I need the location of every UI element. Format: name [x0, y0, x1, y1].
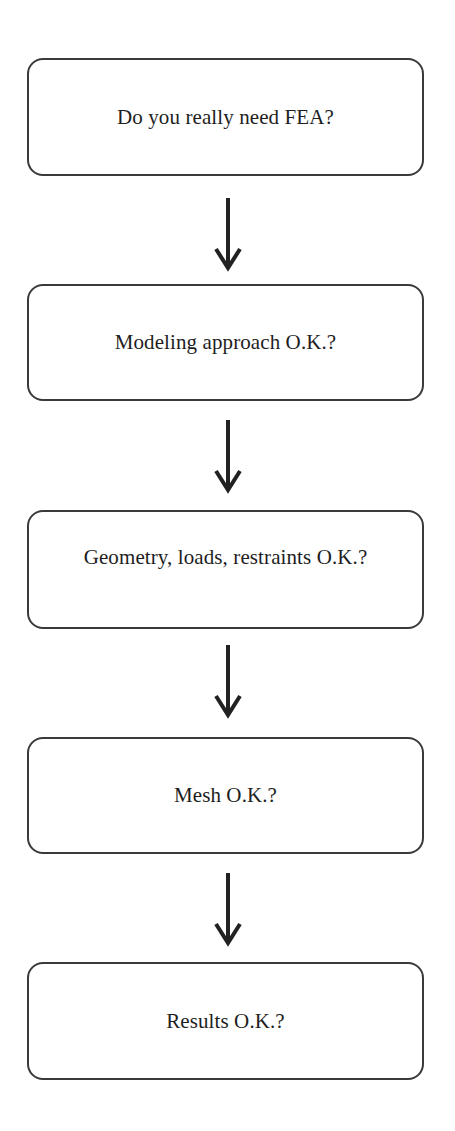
- step-box-geometry-loads-restraints: Geometry, loads, restraints O.K.?: [27, 510, 424, 629]
- down-arrow-icon: [213, 196, 243, 272]
- down-arrow-icon: [213, 418, 243, 494]
- step-label: Results O.K.?: [166, 1009, 285, 1034]
- step-label: Modeling approach O.K.?: [115, 330, 337, 355]
- step-box-results: Results O.K.?: [27, 962, 424, 1080]
- down-arrow-icon: [213, 871, 243, 947]
- step-box-need-fea: Do you really need FEA?: [27, 58, 424, 176]
- step-label: Geometry, loads, restraints O.K.?: [84, 545, 368, 570]
- step-label: Do you really need FEA?: [117, 105, 334, 130]
- step-box-modeling-approach: Modeling approach O.K.?: [27, 284, 424, 401]
- step-label: Mesh O.K.?: [174, 783, 277, 808]
- step-box-mesh: Mesh O.K.?: [27, 737, 424, 854]
- down-arrow-icon: [213, 643, 243, 719]
